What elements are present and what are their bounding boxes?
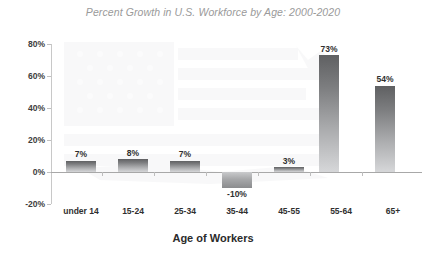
- bar-55-64[interactable]: [319, 55, 339, 172]
- y-axis-tick: [47, 108, 51, 109]
- x-axis-category-35-44: 35-44: [226, 206, 248, 216]
- bar-value-65-plus: 54%: [376, 74, 393, 84]
- y-axis-tick: [47, 44, 51, 45]
- x-axis-category-45-55: 45-55: [278, 206, 300, 216]
- x-axis-tick: [102, 172, 103, 176]
- bar-value-55-64: 73%: [320, 44, 337, 54]
- x-axis-category-55-64: 55-64: [330, 206, 352, 216]
- chart-title: Percent Growth in U.S. Workforce by Age:…: [0, 6, 426, 18]
- y-axis-tick: [47, 204, 51, 205]
- y-axis-label-2: 40%: [28, 103, 45, 113]
- bar-under-14[interactable]: [66, 161, 96, 172]
- x-axis-category-under-14: under 14: [63, 206, 98, 216]
- y-axis-label-4: 0%: [33, 167, 45, 177]
- x-axis-tick: [310, 172, 311, 176]
- y-axis-label-1: 60%: [28, 71, 45, 81]
- bar-value-15-24: 8%: [127, 148, 139, 158]
- plot-area: 80% 60% 40% 20% 0% -20% 7% 8% 7% -10% 3: [51, 44, 423, 204]
- y-axis-tick: [47, 140, 51, 141]
- x-axis-tick: [362, 172, 363, 176]
- bar-45-55[interactable]: [274, 167, 304, 172]
- x-axis-title: Age of Workers: [0, 232, 426, 244]
- x-axis-tick: [206, 172, 207, 176]
- x-axis-tick: [258, 172, 259, 176]
- bar-25-34[interactable]: [170, 161, 200, 172]
- y-axis-line: [51, 44, 52, 204]
- bar-15-24[interactable]: [118, 159, 148, 172]
- x-axis-category-65-plus: 65+: [386, 206, 400, 216]
- bar-value-25-34: 7%: [179, 149, 191, 159]
- bar-35-44[interactable]: [222, 172, 252, 188]
- y-axis-tick: [47, 76, 51, 77]
- x-axis-category-25-34: 25-34: [174, 206, 196, 216]
- bar-value-35-44: -10%: [227, 189, 247, 199]
- bar-value-45-55: 3%: [283, 156, 295, 166]
- y-axis-label-5: -20%: [25, 199, 45, 209]
- y-axis-label-3: 20%: [28, 135, 45, 145]
- x-axis-tick: [154, 172, 155, 176]
- y-axis-tick: [47, 172, 51, 173]
- bar-value-under-14: 7%: [75, 149, 87, 159]
- chart-container: Percent Growth in U.S. Workforce by Age:…: [0, 0, 426, 264]
- bar-65-plus[interactable]: [375, 86, 395, 172]
- y-axis-label-0: 80%: [28, 39, 45, 49]
- x-axis-category-15-24: 15-24: [122, 206, 144, 216]
